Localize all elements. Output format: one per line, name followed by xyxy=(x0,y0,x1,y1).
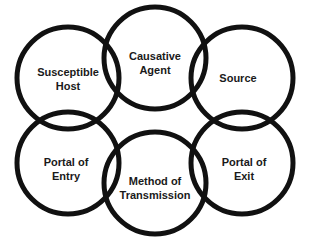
chain-of-infection-diagram: Susceptible Host Causative Agent Source … xyxy=(0,0,309,248)
label-source: Source xyxy=(219,72,256,84)
label-method-of-transmission-line1: Method of xyxy=(129,175,182,187)
label-portal-of-entry-line2: Entry xyxy=(52,170,81,182)
node-method-of-transmission: Method of Transmission xyxy=(104,132,206,234)
label-portal-of-entry-line1: Portal of xyxy=(44,156,89,168)
label-portal-of-exit-line1: Portal of xyxy=(222,156,267,168)
label-causative-agent-line2: Agent xyxy=(139,64,171,76)
label-method-of-transmission-line2: Transmission xyxy=(120,189,191,201)
label-causative-agent-line1: Causative xyxy=(129,50,181,62)
label-susceptible-host-line1: Susceptible xyxy=(37,66,99,78)
label-susceptible-host-line2: Host xyxy=(56,80,81,92)
node-causative-agent: Causative Agent xyxy=(104,7,206,109)
label-portal-of-exit-line2: Exit xyxy=(234,170,255,182)
